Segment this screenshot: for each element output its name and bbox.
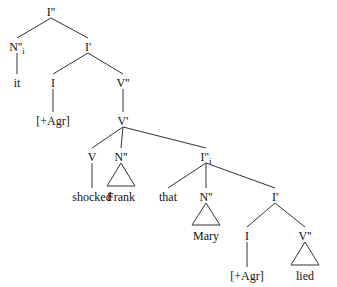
node-label-lied: lied [296,269,314,283]
tree-edge [247,203,275,227]
tree-labels: I''N''iitI'I[+Agr]V''V'VshockedN''FrankI… [9,5,314,283]
tree-edge [121,127,123,148]
node-label-it: it [14,76,21,90]
tree-edge [206,163,275,188]
triangle-abbreviation [192,203,220,225]
node-label-ibar1: I' [85,40,91,54]
triangle-abbreviation [107,163,135,186]
node-label-agr1: [+Agr] [36,114,69,128]
node-label-vp2: V'' [299,229,312,243]
tree-edge [53,53,88,74]
node-label-shocked: shocked [72,190,111,204]
tree-edge [17,18,51,38]
syntax-tree-diagram: I''N''iitI'I[+Agr]V''V'VshockedN''FrankI… [0,0,337,287]
tree-triangles [107,163,319,265]
tree-edge [88,53,123,74]
node-label-root: I'' [47,5,55,19]
node-label-verb: V [88,150,97,164]
node-label-cp: I''i [201,150,212,166]
node-label-infl2: I [245,229,249,243]
triangle-abbreviation [291,242,319,265]
tree-edge [275,203,305,227]
node-label-agr2: [+Agr] [230,269,263,283]
tree-edge [168,163,206,188]
node-subscript: i [22,46,25,56]
node-label-vbar: V' [118,114,129,128]
tree-edges [17,18,305,267]
node-label-that: that [159,190,178,204]
tree-edge [123,127,206,148]
tree-edge [51,18,88,38]
node-label-vp: V'' [117,76,130,90]
node-label-subj: N''i [9,40,25,56]
node-label-subj2: N'' [200,190,213,204]
node-label-frank: Frank [107,190,135,204]
node-label-mary: Mary [193,229,219,243]
tree-canvas: I''N''iitI'I[+Agr]V''V'VshockedN''FrankI… [0,0,337,287]
node-label-infl1: I [51,76,55,90]
tree-edge [92,127,123,148]
node-label-obj: N'' [115,150,128,164]
node-label-ibar2: I' [272,190,278,204]
